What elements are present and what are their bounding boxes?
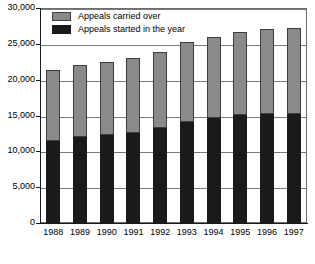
y-axis-line [40,8,41,224]
y-tick-mark [36,116,40,117]
y-tick-label: 0 [30,217,35,227]
bar-segment-carried-over [207,37,221,118]
bar-segment-started-in-year [233,115,247,223]
bar-segment-started-in-year [46,141,60,223]
stacked-bar [73,65,87,223]
bar-segment-carried-over [287,28,301,114]
stacked-bar [153,52,167,223]
bar-segment-started-in-year [287,114,301,223]
stacked-bar [180,42,194,223]
x-tick-label: 1994 [199,227,229,237]
bar-segment-started-in-year [73,137,87,223]
bar-segment-started-in-year [180,122,194,223]
bar-segment-carried-over [153,52,167,127]
x-tick-label: 1991 [118,227,148,237]
bar-segment-carried-over [233,32,247,116]
x-tick-label: 1997 [279,227,309,237]
legend-item-started-in-year: Appeals started in the year [52,24,185,34]
stacked-bar-chart: 05,00010,00015,00020,00025,00030,000 198… [0,0,315,264]
x-tick-label: 1993 [172,227,202,237]
grey-swatch-icon [52,12,71,21]
bar-segment-carried-over [100,62,114,135]
stacked-bar [260,29,274,223]
bar-segment-carried-over [260,29,274,114]
stacked-bar [287,28,301,223]
y-tick-mark [36,44,40,45]
x-tick-label: 1989 [65,227,95,237]
y-tick-mark [36,8,40,9]
legend-item-label: Appeals carried over [78,11,161,21]
bar-segment-started-in-year [207,118,221,223]
y-tick-label: 25,000 [7,38,35,48]
stacked-bar [233,32,247,223]
stacked-bar [207,37,221,223]
bar-segment-started-in-year [100,135,114,223]
stacked-bar [126,58,140,223]
bar-segment-carried-over [180,42,194,122]
x-axis-line [40,223,308,224]
legend-item-carried-over: Appeals carried over [52,11,185,21]
y-tick-mark [36,223,40,224]
bar-segment-started-in-year [153,128,167,223]
bar-segment-started-in-year [260,114,274,223]
y-tick-label: 15,000 [7,110,35,120]
x-tick-label: 1995 [225,227,255,237]
bar-segment-carried-over [46,70,60,142]
bar-segment-carried-over [126,58,140,133]
y-tick-label: 10,000 [7,145,35,155]
y-tick-mark [36,187,40,188]
stacked-bar [46,70,60,223]
legend-item-label: Appeals started in the year [78,24,185,34]
y-tick-mark [36,151,40,152]
x-tick-label: 1996 [252,227,282,237]
x-tick-label: 1988 [38,227,68,237]
bar-segment-carried-over [73,65,87,137]
black-swatch-icon [52,25,71,34]
y-tick-mark [36,80,40,81]
stacked-bar [100,62,114,223]
gridline [41,9,306,10]
bar-segment-started-in-year [126,133,140,223]
y-tick-label: 30,000 [7,2,35,12]
y-tick-label: 5,000 [12,181,35,191]
chart-legend: Appeals carried over Appeals started in … [52,11,185,34]
y-tick-label: 20,000 [7,74,35,84]
x-tick-label: 1992 [145,227,175,237]
x-tick-label: 1990 [92,227,122,237]
